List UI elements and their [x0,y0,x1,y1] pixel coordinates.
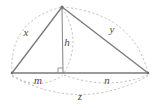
label-m: m [34,74,42,86]
right-angle-marker [58,68,63,73]
right-base-vertex-dot [147,72,150,75]
left-base-vertex-dot [11,72,14,75]
label-n: n [104,74,110,86]
label-y: y [109,23,115,35]
apex-vertex-dot [61,6,64,9]
label-x: x [23,26,29,38]
altitude-line-h [62,7,63,73]
label-h: h [64,36,70,48]
right-side-line-y [62,7,148,73]
left-side-line-x [12,7,62,73]
geometry-diagram: x y h m n z [0,0,158,108]
label-z: z [77,90,83,102]
triangle-figure-svg: x y h m n z [0,0,158,108]
